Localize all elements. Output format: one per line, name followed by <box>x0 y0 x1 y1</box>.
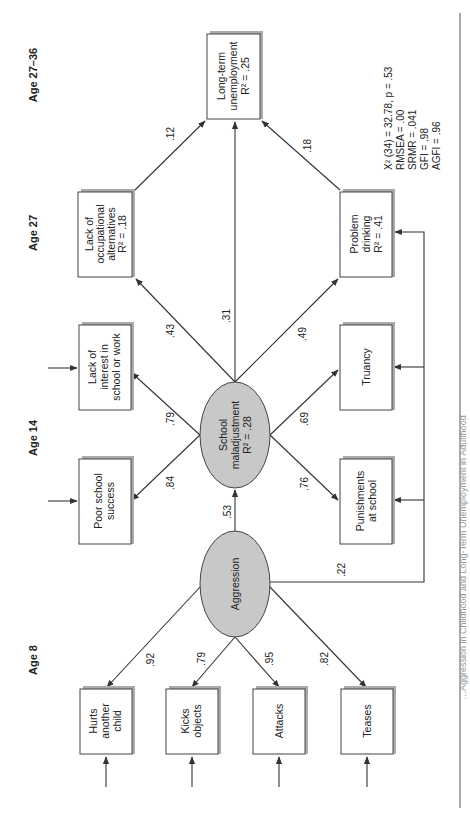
age-label-27-36: Age 27–36 <box>27 48 39 102</box>
path-aggression-hurts <box>107 586 201 687</box>
svg-text:unemployment: unemployment <box>227 41 239 110</box>
svg-text:Problem: Problem <box>348 214 360 253</box>
svg-text:GFI = .98: GFI = .98 <box>419 128 430 170</box>
svg-text:Lack of: Lack of <box>86 350 98 384</box>
svg-text:Aggression: Aggression <box>229 558 241 611</box>
coef-school-interest: .79 <box>165 412 176 426</box>
svg-text:objects: objects <box>191 704 203 737</box>
svg-text:SRMR = .041: SRMR = .041 <box>407 109 418 170</box>
coef-school-drinking: .49 <box>297 327 308 341</box>
coef-school-punishments: .76 <box>299 477 310 491</box>
age-label-14: Age 14 <box>27 419 39 456</box>
coef-aggression-kicks: .79 <box>196 652 207 666</box>
coef-school-truancy: .69 <box>299 412 310 426</box>
fit-indices: X² (34) = 32.78, p = .53 RMSEA = .00 SRM… <box>383 66 442 170</box>
coef-aggression-attacks: .95 <box>264 652 275 666</box>
svg-text:R² = .41: R² = .41 <box>372 215 384 253</box>
age-label-8: Age 8 <box>27 645 39 675</box>
box-lack-of-interest: Lack of interest in school or work <box>79 322 134 410</box>
box-occupational-alternatives: Lack of occupational alternatives R² = .… <box>78 189 135 277</box>
path-school-occupational <box>136 279 235 382</box>
svg-text:child: child <box>111 710 123 732</box>
svg-text:Hurts: Hurts <box>87 708 99 733</box>
svg-text:Punishments: Punishments <box>354 471 366 532</box>
sem-diagram: …Aggression in Childhood and Long-Term U… <box>0 0 470 819</box>
path-school-drinking <box>235 279 338 382</box>
svg-text:R² = .28: R² = .28 <box>241 416 253 454</box>
path-drinking-unemployment <box>262 121 340 190</box>
coef-drinking-unemployment: .18 <box>302 139 313 153</box>
svg-text:Kicks: Kicks <box>179 708 191 733</box>
box-long-term-unemployment: Long-term unemployment R² = .25 <box>207 31 263 119</box>
svg-text:R² = .25: R² = .25 <box>239 57 251 95</box>
coef-occupational-unemployment: .12 <box>165 127 176 141</box>
svg-text:R² = .18: R² = .18 <box>116 215 128 253</box>
box-poor-school-success: Poor school success <box>79 456 134 544</box>
coef-school-occupational: .43 <box>165 324 176 338</box>
svg-text:Teases: Teases <box>361 704 373 737</box>
coef-aggression-teases: .82 <box>319 652 330 666</box>
svg-text:Long-term: Long-term <box>215 52 227 100</box>
svg-text:Poor school: Poor school <box>92 473 104 528</box>
svg-text:Truancy: Truancy <box>360 347 372 385</box>
svg-text:RMSEA = .00: RMSEA = .00 <box>395 109 406 170</box>
svg-text:AGFI = .96: AGFI = .96 <box>431 121 442 170</box>
svg-text:X² (34) = 32.78, p = .53: X² (34) = 32.78, p = .53 <box>383 66 394 170</box>
latent-school-maladjustment: School maladjustment R² = .28 <box>200 382 270 488</box>
box-problem-drinking: Problem drinking R² = .41 <box>340 189 395 277</box>
coef-aggression-school: .53 <box>222 505 233 519</box>
svg-text:another: another <box>99 703 111 739</box>
coef-school-poor-success: .84 <box>165 476 176 490</box>
coef-aggression-drinking: .22 <box>336 563 347 577</box>
latent-aggression: Aggression <box>200 531 270 637</box>
figure-caption: …Aggression in Childhood and Long-Term U… <box>458 415 468 700</box>
svg-text:interest in: interest in <box>98 344 110 390</box>
coef-aggression-hurts: .92 <box>145 653 156 667</box>
svg-text:drinking: drinking <box>360 215 372 252</box>
box-kicks-objects: Kicks objects <box>166 686 221 754</box>
box-punishments-at-school: Punishments at school <box>340 456 395 544</box>
age-label-27: Age 27 <box>27 215 39 251</box>
box-teases: Teases <box>341 686 396 754</box>
svg-text:school or work: school or work <box>110 332 122 400</box>
svg-text:Attacks: Attacks <box>273 704 285 738</box>
coef-school-unemployment: .31 <box>221 309 232 323</box>
box-truancy: Truancy <box>340 322 395 410</box>
path-aggression-teases <box>269 586 366 687</box>
svg-text:at school: at school <box>366 480 378 522</box>
svg-text:maladjustment: maladjustment <box>229 401 241 469</box>
svg-text:success: success <box>104 482 116 520</box>
box-hurts-another-child: Hurts another child <box>80 686 135 754</box>
svg-text:School: School <box>217 419 229 451</box>
box-attacks: Attacks <box>253 686 308 754</box>
